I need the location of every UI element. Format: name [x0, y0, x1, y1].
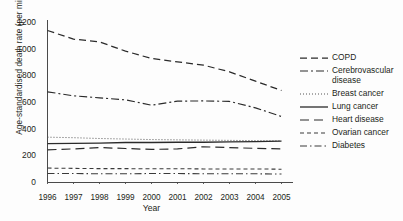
legend-item[interactable]: Heart disease — [300, 114, 403, 125]
series-line-1 — [48, 92, 282, 117]
legend-line-swatch — [300, 114, 328, 125]
series-line-2 — [48, 137, 282, 141]
y-tick-label: 800 — [2, 71, 36, 79]
legend-label: COPD — [332, 52, 356, 62]
plot-svg — [47, 20, 293, 184]
series-line-3 — [48, 141, 282, 143]
legend-line-swatch — [300, 127, 328, 138]
chart-legend: COPDCerebrovascular diseaseBreast cancer… — [300, 52, 403, 153]
legend-label: Diabetes — [332, 140, 365, 150]
legend-item[interactable]: Ovarian cancer — [300, 127, 403, 138]
legend-label: Lung cancer — [332, 101, 378, 111]
plot-area — [47, 20, 293, 184]
series-line-5 — [48, 168, 282, 169]
legend-label: Ovarian cancer — [332, 127, 389, 137]
data-series-group — [48, 31, 282, 174]
legend-label: Heart disease — [332, 114, 384, 124]
y-tick-label: 400 — [2, 125, 36, 133]
legend-line-swatch — [300, 88, 328, 99]
legend-line-swatch — [300, 101, 328, 112]
legend-item[interactable]: Cerebrovascular disease — [300, 65, 403, 86]
x-axis-tick-labels: 1996199719981999200020012002200320042005 — [0, 185, 403, 199]
legend-item[interactable]: COPD — [300, 52, 403, 63]
legend-item[interactable]: Lung cancer — [300, 101, 403, 112]
y-tick-label: 1200 — [2, 18, 36, 26]
legend-item[interactable]: Diabetes — [300, 140, 403, 151]
series-line-4 — [48, 147, 282, 150]
axis-lines — [48, 20, 294, 183]
legend-line-swatch — [300, 52, 328, 63]
legend-line-swatch — [300, 140, 328, 151]
y-tick-label: 1000 — [2, 45, 36, 53]
chart-figure: Age-standardised death rate (per million… — [0, 0, 403, 221]
y-tick-label: 600 — [2, 98, 36, 106]
legend-label: Cerebrovascular disease — [332, 65, 393, 86]
x-axis-title-wrap: Year — [0, 203, 403, 213]
legend-label: Breast cancer — [332, 88, 384, 98]
legend-item[interactable]: Breast cancer — [300, 88, 403, 99]
legend-line-swatch — [300, 65, 328, 76]
x-axis-title: Year — [143, 203, 160, 213]
series-line-6 — [48, 173, 282, 174]
x-tick-label: 2005 — [265, 193, 299, 202]
series-line-0 — [48, 31, 282, 91]
y-tick-label: 200 — [2, 151, 36, 159]
